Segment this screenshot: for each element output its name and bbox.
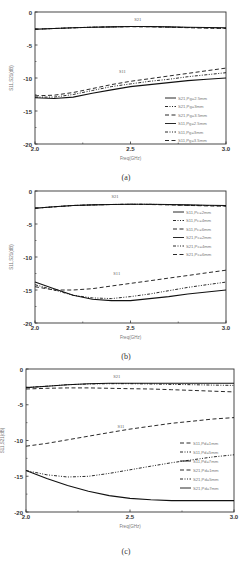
line-chart-b: 0-5-10-15-202.02.53.0Freq(GHz)S11,S21(dB… bbox=[0, 185, 252, 355]
x-tick-label: 3.0 bbox=[222, 146, 231, 152]
legend-entry: S11,Pd=5mm bbox=[193, 450, 219, 455]
legend-entry: S21,Pg=3mm bbox=[178, 104, 204, 109]
y-tick-label: 0 bbox=[29, 189, 33, 195]
chart-panel-a: 0-5-10-15-202.02.53.0Freq(GHz)S11,S21(dB… bbox=[0, 0, 252, 170]
x-tick-label: 2.5 bbox=[126, 146, 135, 152]
y-tick-label: 0 bbox=[29, 10, 33, 16]
legend-entry: S21,Pd=7mm bbox=[193, 486, 219, 491]
legend-entry: S11,Pc=2mm bbox=[186, 210, 211, 215]
curve-annotation: S21 bbox=[113, 374, 120, 379]
y-tick-label: -15 bbox=[14, 474, 23, 480]
x-tick-label: 2.0 bbox=[31, 146, 40, 152]
y-axis-label: S11,S21(dB) bbox=[9, 244, 14, 270]
x-tick-label: 2.5 bbox=[126, 325, 135, 331]
y-tick-label: -5 bbox=[27, 43, 33, 49]
y-tick-label: -15 bbox=[23, 109, 32, 115]
line-chart-a: 0-5-10-15-202.02.53.0Freq(GHz)S11,S21(dB… bbox=[0, 0, 252, 170]
x-axis-label: Freq(GHz) bbox=[120, 156, 142, 161]
series-line bbox=[26, 388, 234, 392]
y-tick-label: -5 bbox=[27, 222, 33, 228]
legend-entry: S11,Pd=1mm bbox=[193, 441, 219, 446]
x-tick-label: 2.0 bbox=[22, 514, 31, 520]
legend-entry: S21,Pg=2.5mm bbox=[178, 96, 207, 101]
curve-annotation: S11 bbox=[113, 271, 120, 276]
caption-b: (b) bbox=[0, 352, 252, 361]
x-axis-label: Freq(GHz) bbox=[119, 524, 141, 529]
line-chart-c: 0-5-10-15-202.02.53.0Freq(GHz)S11,S21(dB… bbox=[0, 362, 252, 542]
legend-entry: S21,Pd=1mm bbox=[193, 468, 219, 473]
legend-entry: S11,Pg=2.5mm bbox=[178, 121, 207, 126]
legend-entry: S11,Pg=3mm bbox=[178, 130, 204, 135]
chart-panel-b: 0-5-10-15-202.02.53.0Freq(GHz)S11,S21(dB… bbox=[0, 185, 252, 355]
series-line bbox=[35, 270, 226, 290]
series-line bbox=[35, 282, 226, 301]
y-tick-label: -15 bbox=[23, 288, 32, 294]
legend-entry: S21,Pc=4mm bbox=[186, 244, 212, 249]
curve-annotation: S21 bbox=[111, 194, 118, 199]
caption-a: (a) bbox=[0, 173, 252, 182]
legend-entry: S11,Pc=4mm bbox=[186, 218, 211, 223]
curve-annotation: S11 bbox=[119, 69, 126, 74]
x-axis-label: Freq(GHz) bbox=[120, 335, 142, 340]
y-tick-label: -10 bbox=[23, 255, 32, 261]
x-tick-label: 2.0 bbox=[31, 325, 40, 331]
x-tick-label: 3.0 bbox=[230, 514, 239, 520]
y-tick-label: -10 bbox=[14, 438, 23, 444]
chart-panel-c: 0-5-10-15-202.02.53.0Freq(GHz)S11,S21(dB… bbox=[0, 362, 252, 542]
y-tick-label: 0 bbox=[20, 367, 24, 373]
series-line bbox=[35, 68, 226, 96]
curve-annotation: S11 bbox=[118, 424, 125, 429]
x-tick-label: 3.0 bbox=[222, 325, 231, 331]
caption-c: (c) bbox=[0, 547, 252, 556]
y-axis-label: S11,S21(dB) bbox=[9, 65, 14, 91]
x-tick-label: 2.5 bbox=[126, 514, 135, 520]
legend-entry: S11,Pc=6mm bbox=[186, 227, 211, 232]
y-tick-label: -5 bbox=[18, 402, 24, 408]
legend-entry: S21,Pc=6mm bbox=[186, 252, 212, 257]
legend-entry: S21,Pc=2mm bbox=[186, 235, 212, 240]
series-line bbox=[26, 383, 234, 387]
y-tick-label: -10 bbox=[23, 76, 32, 82]
curve-annotation: S21 bbox=[134, 17, 141, 22]
legend-entry: S21,Pd=5mm bbox=[193, 477, 219, 482]
y-axis-label: S11,S21(dB) bbox=[0, 427, 5, 453]
legend-entry: S21,Pg=3.5mm bbox=[178, 113, 207, 118]
legend-entry: S11,Pd=7mm bbox=[193, 459, 219, 464]
legend-entry: S11,Pg=3.5mm bbox=[178, 138, 207, 143]
